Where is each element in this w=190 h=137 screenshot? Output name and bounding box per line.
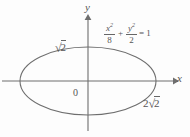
term-2-numerator: y2 [126, 22, 137, 34]
term-2-exponent: 2 [132, 22, 135, 28]
term-1-exponent: 2 [110, 22, 113, 28]
radical-sqrt2-y: √2 [55, 42, 66, 54]
equation-equals-sign: = [139, 29, 144, 38]
term-2-denominator: 2 [126, 34, 137, 45]
y-axis-arrowhead [85, 14, 92, 20]
equation-right-side: 1 [146, 29, 151, 38]
origin-label: 0 [73, 88, 78, 98]
term-1-denominator: 8 [104, 34, 115, 45]
term-1-numerator: x2 [104, 22, 115, 34]
y-intercept-label: √2 [55, 38, 66, 54]
radical-2sqrt2-x: 2√2 [143, 98, 160, 110]
x-axis-label: x [177, 73, 182, 84]
coordinate-plane-svg [0, 0, 190, 137]
equation-term-2: y2 2 [126, 22, 137, 45]
y-axis-label: y [85, 2, 90, 13]
radicand-value: 2 [154, 96, 160, 109]
equation-operator: + [117, 29, 124, 38]
equation-term-1: x2 8 [104, 22, 115, 45]
radicand-value: 2 [61, 40, 67, 53]
ellipse-figure: y x 0 √2 2√2 x2 8 + y2 2 = 1 [0, 0, 190, 137]
x-intercept-label: 2√2 [143, 94, 160, 110]
ellipse-equation: x2 8 + y2 2 = 1 [104, 22, 151, 45]
